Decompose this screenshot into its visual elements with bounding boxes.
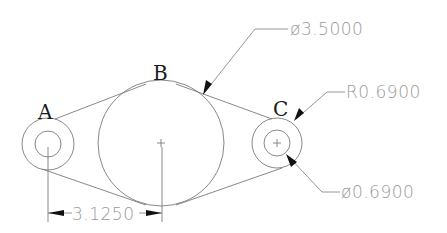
large-circle-b: [98, 80, 224, 206]
dim-center-distance: 3.1250: [72, 204, 134, 224]
leader-large-diameter: ø3.5000: [203, 19, 363, 95]
label-a: A: [37, 100, 53, 124]
dim-radius-c: R0.6900: [346, 82, 421, 102]
leader-hole-diameter: ø0.6900: [286, 154, 414, 202]
leader-radius-c: R0.6900: [294, 82, 421, 121]
cad-drawing: A B C ø3.5000 R0.6900 ø0.6900 3.1250: [0, 0, 447, 233]
arrowhead-large-diameter: [203, 80, 212, 95]
tangent-upper-right: [176, 84, 272, 119]
label-c: C: [273, 97, 288, 121]
leader-line-radius-c: [296, 92, 345, 119]
tangent-lower-left: [42, 169, 146, 205]
tangent-upper-left: [55, 84, 146, 119]
arrowhead-dim-left: [48, 210, 64, 216]
tangent-lower-right: [176, 168, 282, 205]
dimension-center-distance: 3.1250: [48, 147, 162, 224]
dim-large-diameter: ø3.5000: [290, 19, 363, 39]
leader-line-large-diameter: [205, 29, 288, 92]
arrowhead-radius-c: [294, 108, 304, 121]
label-b: B: [153, 61, 168, 85]
dim-hole-diameter: ø0.6900: [341, 182, 414, 202]
arrowhead-dim-right: [146, 210, 162, 216]
